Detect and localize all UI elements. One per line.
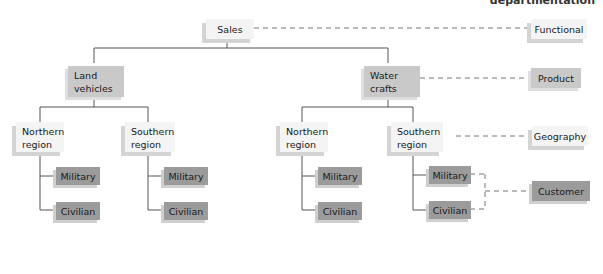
node-label: region — [286, 138, 322, 151]
legend-functional: Functional — [531, 19, 587, 39]
node-land-vehicles: Land vehicles — [68, 66, 124, 97]
node-military-water-north: Military — [318, 167, 362, 185]
node-northern-region-water: Northern region — [280, 122, 328, 152]
legend-product: Product — [531, 68, 581, 88]
node-label: region — [22, 138, 58, 151]
node-label: Northern — [286, 125, 322, 138]
node-label: region — [131, 138, 169, 151]
node-southern-region-land: Southern region — [125, 122, 175, 152]
node-civilian-water-north: Civilian — [318, 202, 362, 220]
legend-geography: Geography — [532, 126, 588, 146]
node-label: Southern — [397, 125, 437, 138]
node-label: Land — [74, 69, 118, 82]
node-water-crafts: Water crafts — [364, 66, 420, 97]
node-label: region — [397, 138, 437, 151]
node-civilian-water-south: Civilian — [429, 201, 471, 219]
node-civilian-land-north: Civilian — [56, 202, 100, 220]
legend-customer: Customer — [532, 181, 590, 201]
node-military-water-south: Military — [429, 166, 471, 184]
node-civilian-land-south: Civilian — [164, 202, 208, 220]
node-label: crafts — [370, 82, 414, 95]
node-label: Southern — [131, 125, 169, 138]
node-military-land-north: Military — [56, 167, 100, 185]
node-label: Northern — [22, 125, 58, 138]
node-sales: Sales — [206, 19, 254, 39]
node-label: Water — [370, 69, 414, 82]
node-label: vehicles — [74, 82, 118, 95]
node-southern-region-water: Southern region — [391, 122, 443, 152]
node-northern-region-land: Northern region — [16, 122, 64, 152]
node-military-land-south: Military — [164, 167, 208, 185]
